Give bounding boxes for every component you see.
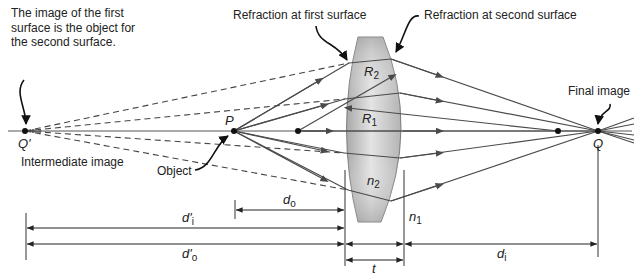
object-label: Object [157, 164, 192, 178]
incident-rays [234, 63, 349, 190]
t-label: t [372, 262, 376, 276]
q-prime-label: Q' [18, 137, 31, 151]
p-label: P [225, 114, 234, 128]
n2-label: n2 [367, 174, 380, 192]
intermediate-image-label: Intermediate image [21, 155, 124, 169]
q-label: Q [593, 137, 603, 151]
n1-label: n1 [409, 210, 422, 228]
r1-label: R1 [362, 112, 377, 130]
di-prime-label: d'i [182, 211, 194, 229]
point-q [595, 128, 601, 134]
point-q-prime [22, 128, 28, 134]
do-prime-label: d'o [182, 247, 197, 265]
do-label: do [283, 193, 296, 211]
center-of-curvature-2 [555, 128, 561, 134]
first-surface-label: Refraction at first surface [233, 8, 366, 22]
center-of-curvature-1 [295, 128, 301, 134]
second-surface-label: Refraction at second surface [424, 8, 577, 22]
intermediate-image-note: The image of the first surface is the ob… [11, 6, 141, 50]
di-label: di [497, 247, 506, 265]
dimension-lines [27, 210, 597, 260]
point-p [231, 128, 237, 134]
final-image-label: Final image [568, 84, 630, 98]
r2-label: R2 [364, 65, 379, 83]
